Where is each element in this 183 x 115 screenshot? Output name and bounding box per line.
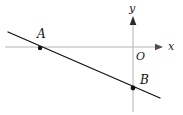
- line-AB: [8, 32, 160, 98]
- geometry-figure: y x O A B: [0, 0, 183, 115]
- point-B-marker: [131, 86, 136, 91]
- point-B-label: B: [140, 74, 149, 86]
- point-A-marker: [38, 46, 42, 50]
- y-axis-arrowhead: [130, 16, 137, 25]
- figure-canvas: [0, 0, 183, 115]
- y-axis: [130, 16, 137, 112]
- point-A-label: A: [37, 28, 46, 40]
- x-axis-label: x: [168, 41, 174, 52]
- x-axis-arrowhead: [155, 44, 163, 51]
- y-axis-label: y: [129, 3, 135, 14]
- origin-label: O: [136, 51, 145, 62]
